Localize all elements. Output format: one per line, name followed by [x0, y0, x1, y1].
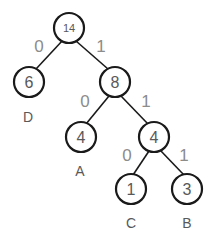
node-value: 6	[25, 74, 34, 91]
leaf-label-d: D	[23, 109, 33, 125]
node-value: 1	[127, 181, 136, 198]
node-value: 3	[183, 181, 192, 198]
leaf-label-a: A	[75, 163, 85, 179]
node-value: 4	[77, 129, 86, 146]
node-4: 4	[139, 122, 169, 152]
edge-label-8-4: 1	[141, 92, 150, 111]
node-6: 6	[14, 67, 44, 97]
node-value: 4	[150, 129, 159, 146]
leaf-label-b: B	[182, 215, 191, 231]
edge-label-4-3: 1	[179, 146, 188, 165]
edge-label-root-8: 1	[96, 37, 105, 56]
edge-4-1	[133, 151, 149, 175]
huffman-tree-diagram: 0 1 0 1 0 1 14 6 8 4 4 1 3 D A C B	[0, 0, 218, 240]
edge-label-4-1: 0	[122, 146, 131, 165]
edge-label-8-4a: 0	[80, 92, 89, 111]
edge-label-root-6: 0	[34, 37, 43, 56]
leaf-label-c: C	[126, 215, 136, 231]
node-4a: 4	[66, 122, 96, 152]
node-value: 8	[111, 74, 120, 91]
node-1: 1	[116, 174, 146, 204]
node-value: 14	[63, 22, 75, 34]
node-root: 14	[54, 13, 84, 43]
node-3: 3	[172, 174, 202, 204]
node-8: 8	[100, 67, 130, 97]
